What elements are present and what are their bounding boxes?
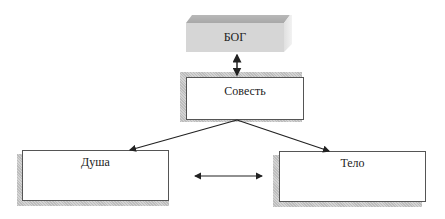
- edge-conscience-soul: [130, 120, 237, 150]
- connectors: [0, 0, 445, 219]
- edge-conscience-body: [237, 120, 329, 151]
